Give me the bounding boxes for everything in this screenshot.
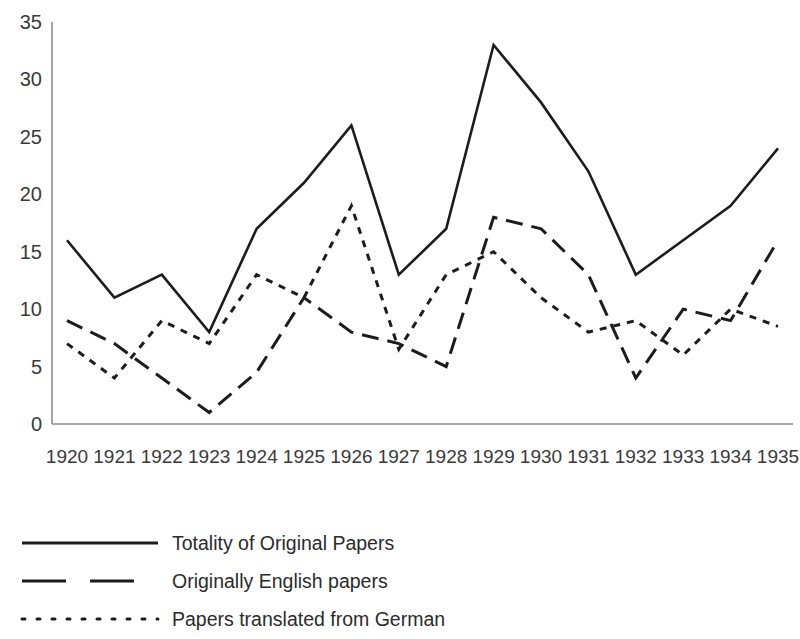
legend-label: Originally English papers bbox=[172, 570, 388, 592]
x-tick-label: 1923 bbox=[188, 446, 230, 467]
x-tick-label: 1933 bbox=[662, 446, 704, 467]
y-tick-label: 5 bbox=[31, 356, 42, 378]
x-tick-label: 1921 bbox=[93, 446, 135, 467]
x-tick-label: 1934 bbox=[709, 446, 752, 467]
series-line-dashed bbox=[67, 217, 778, 412]
y-tick-label: 0 bbox=[31, 413, 42, 435]
x-tick-label: 1929 bbox=[472, 446, 514, 467]
y-tick-label: 25 bbox=[20, 126, 42, 148]
chart-figure: 35302520151050 1920192119221923192419251… bbox=[0, 0, 800, 639]
y-tick-label: 30 bbox=[20, 68, 42, 90]
y-tick-label: 35 bbox=[20, 11, 42, 33]
x-tick-label: 1931 bbox=[567, 446, 609, 467]
y-axis-tick-labels: 35302520151050 bbox=[20, 11, 42, 435]
x-tick-label: 1932 bbox=[615, 446, 657, 467]
x-tick-label: 1930 bbox=[520, 446, 562, 467]
line-chart: 35302520151050 1920192119221923192419251… bbox=[0, 0, 800, 639]
series-line-solid bbox=[67, 45, 778, 332]
legend-label: Totality of Original Papers bbox=[172, 532, 394, 554]
x-tick-label: 1922 bbox=[141, 446, 183, 467]
x-tick-label: 1920 bbox=[46, 446, 88, 467]
x-tick-label: 1925 bbox=[283, 446, 325, 467]
x-axis-tick-labels: 1920192119221923192419251926192719281929… bbox=[46, 446, 799, 467]
series-line-dotted bbox=[67, 206, 778, 378]
chart-legend: Totality of Original PapersOriginally En… bbox=[22, 532, 445, 630]
x-tick-label: 1926 bbox=[330, 446, 372, 467]
x-tick-label: 1935 bbox=[757, 446, 799, 467]
y-tick-label: 10 bbox=[20, 298, 42, 320]
series-group bbox=[67, 45, 778, 413]
y-tick-label: 15 bbox=[20, 241, 42, 263]
x-tick-label: 1927 bbox=[378, 446, 420, 467]
x-tick-label: 1928 bbox=[425, 446, 467, 467]
y-tick-label: 20 bbox=[20, 183, 42, 205]
x-tick-label: 1924 bbox=[235, 446, 278, 467]
legend-label: Papers translated from German bbox=[172, 608, 445, 630]
